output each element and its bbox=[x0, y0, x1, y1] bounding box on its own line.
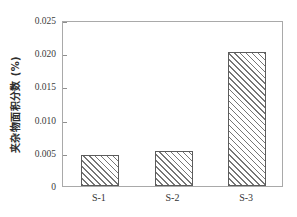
y-axis-tick-label: 0 bbox=[51, 182, 56, 192]
plot-area bbox=[62, 21, 283, 187]
chart-figure: 夹杂物面积分数 (%) 00.0050.0100.0150.0200.025 S… bbox=[0, 0, 297, 217]
y-axis-tick-mark bbox=[63, 155, 67, 156]
y-axis-title-text: 夹杂物面积分数 (%) bbox=[8, 55, 23, 152]
x-axis-tick-label-s-2: S-2 bbox=[166, 192, 180, 203]
x-axis-tick-label-s-3: S-3 bbox=[239, 192, 253, 203]
y-axis-tick-label: 0.010 bbox=[35, 116, 56, 126]
x-axis-tick-labels: S-1S-2S-3 bbox=[62, 190, 283, 212]
y-axis-tick-mark bbox=[63, 55, 67, 56]
y-axis-tick-label: 0.015 bbox=[35, 82, 56, 92]
y-axis-tick-label: 0.025 bbox=[35, 16, 56, 26]
bar-s-3 bbox=[228, 52, 266, 186]
bar-s-2 bbox=[155, 151, 193, 186]
plot-inner bbox=[63, 22, 282, 186]
y-axis-tick-mark bbox=[63, 22, 67, 23]
y-axis-tick-mark bbox=[63, 88, 67, 89]
x-axis-tick-label-s-1: S-1 bbox=[92, 192, 106, 203]
bar-s-1 bbox=[81, 155, 119, 186]
y-axis-tick-labels: 00.0050.0100.0150.0200.025 bbox=[22, 0, 60, 217]
y-axis-tick-label: 0.005 bbox=[35, 149, 56, 159]
y-axis-tick-mark bbox=[63, 122, 67, 123]
y-axis-tick-label: 0.020 bbox=[35, 49, 56, 59]
